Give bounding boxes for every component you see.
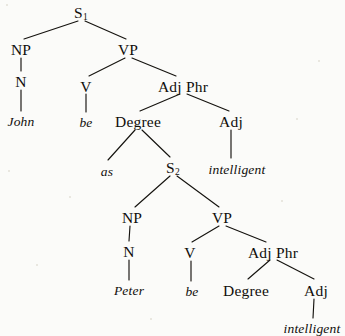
tree-node-label: be (185, 284, 198, 299)
paper-speck-2 (8, 170, 10, 172)
tree-node-adjphr2: Adj Phr (248, 245, 298, 261)
tree-node-degree1: Degree (115, 114, 161, 130)
tree-node-label: N (15, 73, 26, 90)
tree-node-label: intelligent (209, 162, 266, 177)
tree-node-v1: V (80, 79, 91, 95)
tree-node-label: Degree (223, 282, 269, 299)
paper-speck-3 (318, 60, 320, 62)
tree-node-vp1: VP (118, 42, 138, 58)
paper-speck-4 (36, 264, 38, 266)
tree-branch-s2-to-np2 (135, 176, 170, 207)
tree-node-label: John (7, 114, 34, 129)
tree-node-s1: S1 (74, 5, 88, 23)
tree-branch-adjphr1-to-adj1 (187, 94, 229, 111)
tree-node-as: as (101, 165, 113, 179)
tree-node-label: Adj (219, 113, 243, 130)
syntax-tree-diagram: S1NPVPNVAdj PhrJohnbeDegreeAdjasS2intell… (0, 0, 345, 336)
tree-node-be2: be (185, 285, 198, 299)
tree-node-degree2: Degree (223, 283, 269, 299)
tree-node-adjphr1: Adj Phr (158, 79, 208, 95)
tree-node-label: NP (122, 209, 142, 226)
tree-node-n1: N (15, 74, 26, 90)
tree-node-v2: V (184, 245, 195, 261)
tree-branch-s2-to-vp2 (177, 176, 219, 207)
tree-node-adj2: Adj (304, 283, 328, 299)
tree-node-label: Peter (114, 283, 144, 298)
tree-branch-vp1-to-adjphr1 (132, 58, 176, 76)
tree-branch-vp1-to-v1 (89, 58, 125, 76)
tree-branch-s1-to-np1 (24, 21, 78, 39)
tree-branch-adjphr1-to-degree1 (140, 94, 180, 111)
tree-branch-vp2-to-v2 (192, 226, 219, 242)
tree-node-be1: be (79, 116, 92, 130)
tree-node-label: NP (11, 41, 31, 58)
tree-node-label: intelligent (284, 321, 341, 336)
tree-node-intell2: intelligent (284, 322, 341, 336)
tree-node-label: Adj Phr (158, 78, 208, 95)
tree-node-label: Adj (304, 282, 328, 299)
tree-branch-adjphr2-to-adj2 (277, 260, 314, 279)
tree-branch-s1-to-vp1 (85, 21, 126, 39)
tree-node-label: VP (118, 41, 138, 58)
tree-node-subscript: 2 (175, 167, 180, 177)
tree-branch-vp2-to-adjphr2 (226, 226, 266, 242)
tree-node-label: VP (212, 209, 232, 226)
tree-node-label: be (79, 115, 92, 130)
tree-branch-adj2-to-intell2 (313, 299, 314, 318)
tree-node-label: Adj Phr (248, 244, 298, 261)
tree-branch-degree1-to-as (108, 130, 135, 160)
tree-branch-adjphr2-to-degree2 (248, 260, 270, 279)
tree-node-john: John (7, 115, 34, 129)
paper-speck-5 (281, 200, 283, 202)
paper-speck-0 (6, 4, 8, 6)
tree-node-intell1: intelligent (209, 163, 266, 177)
tree-node-np2: NP (122, 210, 142, 226)
tree-node-label: N (123, 243, 134, 260)
tree-node-label: S (74, 4, 83, 21)
tree-branch-degree1-to-s2 (142, 130, 170, 157)
tree-node-label: Degree (115, 113, 161, 130)
tree-node-n2: N (123, 244, 134, 260)
tree-node-subscript: 1 (83, 12, 88, 22)
tree-node-peter: Peter (114, 284, 144, 298)
tree-node-np1: NP (11, 42, 31, 58)
tree-node-label: as (101, 164, 113, 179)
paper-speck-6 (150, 318, 152, 320)
tree-node-adj1: Adj (219, 114, 243, 130)
tree-node-label: V (184, 244, 195, 261)
tree-branch-np2-to-n2 (129, 226, 130, 241)
tree-node-label: V (80, 78, 91, 95)
paper-speck-7 (69, 196, 71, 198)
paper-speck-1 (296, 118, 298, 120)
tree-node-label: S (166, 159, 175, 176)
tree-node-vp2: VP (212, 210, 232, 226)
tree-node-s2: S2 (166, 160, 180, 178)
